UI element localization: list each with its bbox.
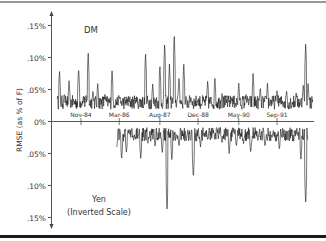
dm-series-line: [57, 36, 313, 109]
x-tick-label: Sep-91: [266, 111, 287, 119]
bottom-rule: [0, 235, 326, 238]
inverted-scale-label: (Inverted Scale): [67, 208, 131, 217]
y-tick-label: 0%: [34, 118, 46, 127]
x-tick-label: Aug-87: [149, 111, 171, 119]
yen-label: Yen: [91, 195, 106, 204]
arrow-up-icon: [50, 11, 54, 16]
y-tick-label: .05%: [27, 150, 46, 159]
x-tick-label: Mar-86: [109, 111, 130, 118]
x-ticks: Nov-84Mar-86Aug-87Dec-88May-90Sep-91: [70, 111, 287, 125]
y-axis: .15%.10%.05%0%.05%.10%.15%: [27, 11, 54, 229]
arrow-down-icon: [50, 224, 54, 229]
y-tick-label: .05%: [27, 86, 46, 95]
y-tick-label: .15%: [27, 22, 46, 31]
y-tick-label: .10%: [27, 54, 46, 63]
y-ticks: .15%.10%.05%0%.05%.10%.15%: [27, 22, 52, 223]
y-tick-label: .15%: [27, 214, 46, 223]
dm-label: DM: [84, 25, 98, 35]
yen-series-line: [117, 127, 308, 209]
y-axis-title: RMSE (as % of F): [15, 88, 24, 152]
y-tick-label: .10%: [27, 182, 46, 191]
x-tick-label: Nov-84: [70, 111, 92, 118]
rmse-chart: .15%.10%.05%0%.05%.10%.15% RMSE (as % of…: [0, 0, 326, 241]
x-tick-label: May-90: [228, 111, 250, 119]
x-tick-label: Dec-88: [187, 111, 209, 118]
